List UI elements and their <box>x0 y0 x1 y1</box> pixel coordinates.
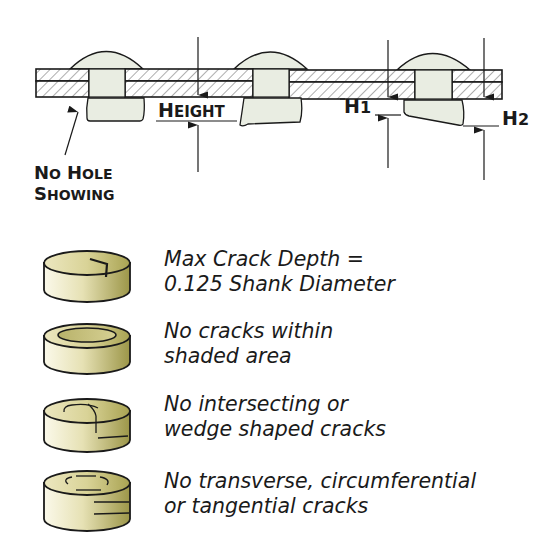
h2-label: H2 <box>502 107 529 129</box>
criteria-line2: 0.125 Shank Diameter <box>164 272 396 296</box>
no-hole-label-line2: SHOWING <box>34 183 114 204</box>
rivet-shank-3 <box>415 70 452 99</box>
rivet-head-1 <box>70 52 143 70</box>
rivet-cross-section: HEIGHT H1 H2 NOHOLE SHOWING <box>34 37 529 204</box>
rivet-tail-shaded-ring-icon <box>44 324 130 374</box>
rivet-shank-1 <box>89 69 125 97</box>
bucked-tail-2 <box>240 98 302 126</box>
criteria-line1: No transverse, circumferential <box>164 469 476 493</box>
criteria-item-no-intersecting: No intersecting or wedge shaped cracks <box>44 392 386 452</box>
criteria-line1: No intersecting or <box>164 392 350 416</box>
rivet-tail-radial-crack-icon <box>44 251 130 302</box>
criteria-line1: No cracks within <box>164 319 333 343</box>
no-hole-label-line1: NOHOLE <box>34 162 112 183</box>
rivet-shank-2 <box>253 69 289 97</box>
rivet-head-2 <box>234 52 307 69</box>
rivet-tail-circumferential-crack-icon <box>44 471 130 531</box>
h1-label: H1 <box>344 95 371 117</box>
criteria-item-max-crack-depth: Max Crack Depth = 0.125 Shank Diameter <box>44 247 396 302</box>
criteria-line2: wedge shaped cracks <box>164 417 386 441</box>
bucked-tail-1 <box>87 98 145 121</box>
rivet-head-3 <box>397 54 470 71</box>
rivet-inspection-diagram: HEIGHT H1 H2 NOHOLE SHOWING Max Crack De… <box>0 0 533 539</box>
criteria-line2: shaded area <box>164 344 292 368</box>
criteria-item-no-transverse: No transverse, circumferential or tangen… <box>44 469 476 531</box>
criteria-line1: Max Crack Depth = <box>164 247 364 271</box>
criteria-item-no-cracks-shaded: No cracks within shaded area <box>44 319 333 374</box>
height-label: HEIGHT <box>158 99 226 121</box>
no-hole-arrow <box>65 112 78 155</box>
bucked-tail-3-tilted <box>404 100 464 125</box>
rivet-tail-intersecting-crack-icon <box>44 399 130 452</box>
criteria-line2: or tangential cracks <box>164 494 369 518</box>
